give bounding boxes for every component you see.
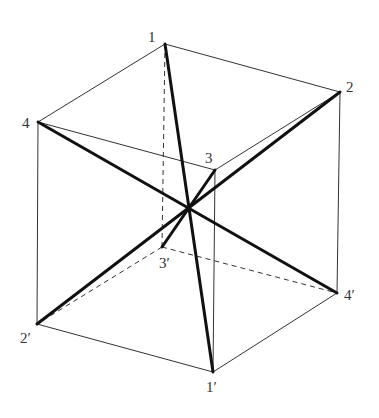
label-1-prime: 1′ xyxy=(206,379,217,395)
edge-4-2p xyxy=(37,122,38,324)
label-1: 1 xyxy=(148,29,156,45)
edge-3-1p xyxy=(213,170,215,372)
cube-diagram: 1 2 3 4 1′ 2′ 3′ 4′ xyxy=(0,0,379,418)
edge-2-4p xyxy=(337,92,340,293)
edge-1-4 xyxy=(38,44,165,122)
hidden-edge-3p-4p xyxy=(162,247,337,293)
edge-1p-4p xyxy=(213,293,337,372)
diagonal-4-4p xyxy=(38,122,337,293)
label-4: 4 xyxy=(22,115,30,131)
label-3: 3 xyxy=(205,150,213,166)
edge-1-2 xyxy=(165,44,340,92)
edge-2p-1p xyxy=(37,324,213,372)
label-2: 2 xyxy=(346,79,354,95)
hidden-edge-1-3p xyxy=(162,44,165,247)
label-4-prime: 4′ xyxy=(344,287,355,303)
edge-2-3 xyxy=(215,92,340,170)
hidden-edge-3p-2p xyxy=(37,247,162,324)
edge-3-4 xyxy=(38,122,215,170)
label-2-prime: 2′ xyxy=(20,330,31,346)
body-diagonals xyxy=(37,44,340,372)
label-3-prime: 3′ xyxy=(159,255,170,271)
